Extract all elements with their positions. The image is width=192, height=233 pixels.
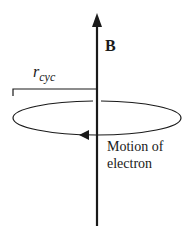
- motion-label: Motion of electron: [107, 138, 163, 172]
- radius-label-subscript: cyc: [39, 70, 55, 84]
- radius-label: rcyc: [33, 64, 55, 83]
- cyclotron-diagram: [0, 0, 192, 233]
- orbit-ellipse-top-right: [101, 101, 181, 118]
- orbit-ellipse-top: [13, 101, 93, 118]
- motion-label-line2: electron: [107, 155, 163, 172]
- field-label: B: [105, 38, 116, 54]
- motion-arrow-icon: [79, 130, 89, 140]
- radius-bracket: [13, 89, 97, 96]
- field-arrow-head-icon: [92, 13, 102, 27]
- motion-label-line1: Motion of: [107, 138, 163, 155]
